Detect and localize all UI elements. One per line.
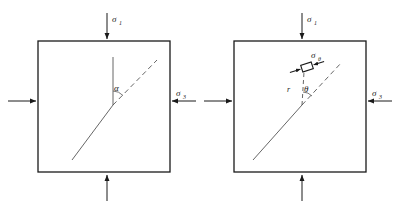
right-panel: σ 1 σ 3 θ r σ θ (204, 13, 392, 201)
hoop-stress-label: σ (311, 50, 316, 60)
sigma3-sub-right: 3 (378, 94, 382, 100)
dashed-extension-left (113, 60, 157, 105)
figure-canvas: σ 1 σ 3 α σ 1 σ 3 (0, 0, 401, 215)
sigma3-label-left: σ (176, 88, 181, 98)
left-panel: σ 1 σ 3 α (8, 13, 196, 201)
hoop-stress-arrow-left (290, 69, 300, 72)
stress-element-box (301, 62, 314, 72)
sigma3-label-right: σ (372, 88, 377, 98)
hoop-stress-sub: θ (318, 56, 321, 62)
specimen-square-left (38, 41, 170, 172)
crack-line-left (72, 105, 113, 160)
alpha-label: α (114, 83, 119, 93)
theta-label: θ (304, 84, 309, 94)
sigma1-top-label-left: σ (112, 14, 117, 24)
sigma1-top-label-right: σ (307, 14, 312, 24)
sigma3-sub-left: 3 (182, 94, 186, 100)
sigma1-top-sub-right: 1 (314, 20, 317, 26)
sigma1-top-sub-left: 1 (119, 20, 122, 26)
crack-line-right (253, 105, 302, 160)
specimen-square-right (234, 41, 366, 172)
radius-label: r (287, 85, 291, 94)
rock-mechanics-diagram: σ 1 σ 3 α σ 1 σ 3 (0, 0, 401, 215)
